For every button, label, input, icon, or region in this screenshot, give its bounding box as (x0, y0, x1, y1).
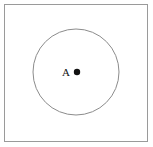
geometry-diagram-svg: A (0, 0, 153, 147)
point-label-A: A (62, 66, 70, 78)
figure-canvas: A (0, 0, 153, 147)
center-point-A-dot (74, 69, 80, 75)
